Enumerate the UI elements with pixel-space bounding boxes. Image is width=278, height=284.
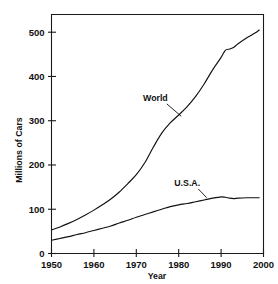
x-axis-tick-labels: 195019601970198019902000 bbox=[41, 259, 274, 270]
series-line-u-s-a bbox=[52, 197, 260, 240]
y-tick-label: 200 bbox=[29, 159, 45, 170]
cars-line-chart: 0100200300400500 19501960197019801990200… bbox=[0, 0, 278, 284]
chart-figure: 0100200300400500 19501960197019801990200… bbox=[0, 0, 278, 284]
series-annotations: WorldU.S.A. bbox=[143, 93, 207, 198]
annotation-label-world: World bbox=[143, 93, 168, 103]
x-tick-label: 1970 bbox=[126, 259, 147, 270]
y-tick-label: 100 bbox=[29, 204, 45, 215]
x-tick-label: 1950 bbox=[41, 259, 62, 270]
y-tick-label: 500 bbox=[29, 27, 45, 38]
y-tick-label: 300 bbox=[29, 115, 45, 126]
x-axis-title: Year bbox=[148, 271, 167, 281]
x-tick-label: 1960 bbox=[83, 259, 104, 270]
y-axis-tick-labels: 0100200300400500 bbox=[29, 27, 45, 259]
y-axis-title: Millions of Cars bbox=[14, 117, 24, 183]
x-tick-label: 2000 bbox=[253, 259, 274, 270]
data-series-group bbox=[52, 30, 260, 240]
annotation-leader-line bbox=[167, 104, 181, 116]
plot-frame bbox=[52, 15, 264, 254]
x-tick-label: 1980 bbox=[168, 259, 189, 270]
annotation-label-u-s-a: U.S.A. bbox=[174, 178, 200, 188]
y-tick-label: 400 bbox=[29, 71, 45, 82]
y-tick-label: 0 bbox=[39, 248, 44, 259]
annotation-leader-line bbox=[198, 189, 206, 198]
x-tick-label: 1990 bbox=[211, 259, 232, 270]
series-line-world bbox=[52, 30, 260, 230]
